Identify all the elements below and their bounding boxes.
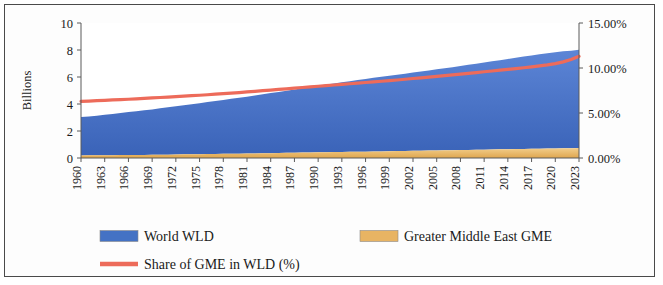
x-tick-label: 2023 (568, 166, 582, 190)
chart-legend: World WLDGreater Middle East GMEShare of… (100, 229, 552, 273)
y2-tick-label: 10.00% (588, 62, 627, 76)
y-tick-label: 4 (67, 98, 74, 112)
x-tick-label: 2002 (402, 166, 416, 190)
x-tick-label: 1990 (307, 166, 321, 190)
x-tick-label: 1993 (331, 166, 345, 190)
x-tick-label: 1984 (260, 166, 274, 190)
x-tick-label: 2005 (426, 166, 440, 190)
legend-item: Share of GME in WLD (%) (100, 257, 300, 273)
x-tick-label: 1972 (165, 166, 179, 190)
population-share-area-chart: 02468100.00%5.00%10.00%15.00%Billions196… (5, 5, 656, 278)
chart-frame: 02468100.00%5.00%10.00%15.00%Billions196… (4, 4, 655, 277)
chart-area: 02468100.00%5.00%10.00%15.00%Billions196… (5, 5, 656, 278)
x-tick-label: 2020 (544, 166, 558, 190)
x-tick-label: 1963 (94, 166, 108, 190)
x-tick-label: 1999 (378, 166, 392, 190)
x-tick-label: 2008 (449, 166, 463, 190)
x-tick-label: 2017 (521, 166, 535, 190)
y-tick-label: 6 (67, 71, 73, 85)
y2-tick-label: 5.00% (588, 107, 620, 121)
y2-tick-label: 0.00% (588, 152, 620, 166)
x-tick-label: 1981 (236, 166, 250, 190)
y-tick-label: 2 (67, 125, 73, 139)
x-tick-label: 1966 (117, 166, 131, 190)
x-tick-label: 2014 (497, 166, 511, 190)
legend-swatch (360, 231, 398, 242)
x-tick-label: 2011 (473, 166, 487, 190)
legend-item: Greater Middle East GME (360, 229, 552, 244)
x-tick-label: 1978 (212, 166, 226, 190)
legend-label: Greater Middle East GME (404, 229, 552, 244)
y-tick-label: 8 (67, 44, 73, 58)
x-tick-label: 1987 (283, 166, 297, 190)
x-tick-label: 1969 (141, 166, 155, 190)
y-tick-label: 0 (67, 152, 73, 166)
y2-tick-label: 15.00% (588, 17, 627, 31)
x-tick-label: 1975 (189, 166, 203, 190)
y-axis-title: Billions (20, 71, 34, 111)
x-tick-label: 1960 (70, 166, 84, 190)
y-tick-label: 10 (61, 17, 74, 31)
legend-item: World WLD (100, 229, 214, 244)
legend-swatch (100, 231, 138, 242)
x-tick-label: 1996 (355, 166, 369, 190)
legend-label: World WLD (144, 229, 214, 244)
legend-label: Share of GME in WLD (%) (144, 257, 300, 273)
